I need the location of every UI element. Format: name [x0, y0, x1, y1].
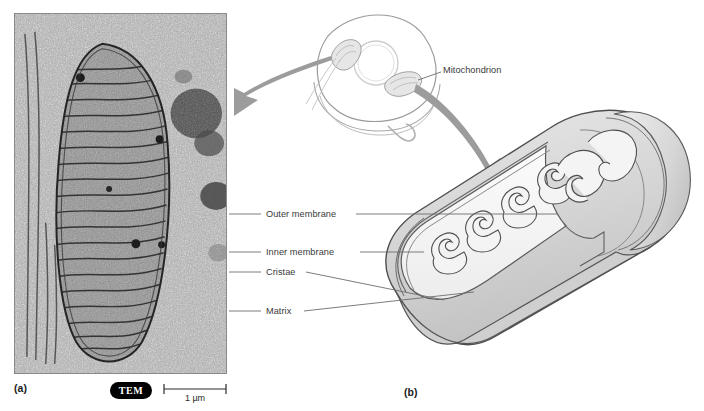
label-mitochondrion: Mitochondrion: [443, 65, 501, 75]
cell-overview-diagram: [306, 15, 441, 141]
label-outer-membrane: Outer membrane: [266, 209, 336, 219]
label-matrix: Matrix: [266, 306, 291, 316]
panel-a-letter: (a): [14, 382, 27, 394]
mitochondrion-figure: (a) TEM 1 µm: [0, 0, 704, 411]
tem-badge: TEM: [110, 382, 152, 399]
panel-b-letter: (b): [404, 386, 418, 398]
arrow-left: [234, 56, 332, 116]
micrograph-panel: [14, 13, 227, 374]
diagram-panel: [228, 0, 704, 411]
label-cristae: Cristae: [266, 267, 295, 277]
mitochondrion-3d-diagram: [386, 110, 690, 344]
micrograph-image: [15, 14, 226, 373]
label-inner-membrane: Inner membrane: [266, 247, 334, 257]
scale-bar-label: 1 µm: [163, 393, 227, 403]
